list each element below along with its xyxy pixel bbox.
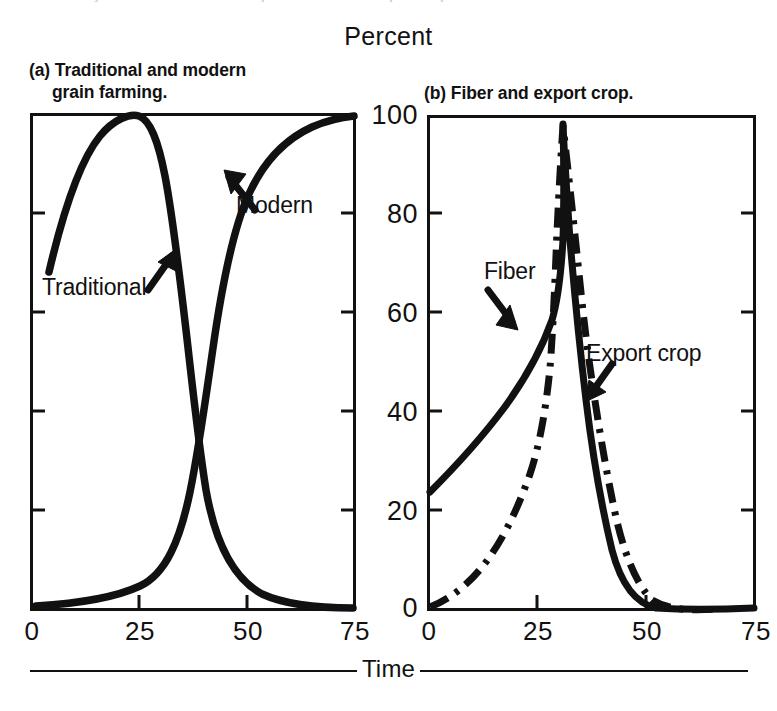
x-axis-label-text: Time xyxy=(357,655,420,682)
panel-a-y-ticks-right xyxy=(341,213,355,510)
fiber-arrow-icon xyxy=(488,290,518,330)
curve-modern xyxy=(36,116,354,606)
panel-b-x-ticks xyxy=(537,595,646,609)
panel-b-x-tick-0: 0 xyxy=(399,616,459,647)
x-axis-label: Time xyxy=(0,655,777,683)
label-modern: Modern xyxy=(236,192,313,219)
panel-a-x-tick-75: 75 xyxy=(325,616,385,647)
panel-a-x-tick-0: 0 xyxy=(2,616,62,647)
panel-a-x-ticks xyxy=(139,595,247,609)
panel-b-plot xyxy=(400,0,777,640)
curve-export-crop xyxy=(430,126,720,610)
curve-traditional xyxy=(49,115,353,608)
label-traditional: Traditional xyxy=(42,274,146,301)
panel-b-y-ticks-right xyxy=(741,213,755,510)
panel-b-x-tick-75: 75 xyxy=(726,616,777,647)
panel-a-plot xyxy=(0,0,400,640)
panel-a-x-tick-25: 25 xyxy=(110,616,170,647)
label-fiber: Fiber xyxy=(484,258,535,285)
panel-b-x-tick-50: 50 xyxy=(617,616,677,647)
panel-a-y-ticks xyxy=(31,213,45,510)
figure-root: tendency toward concentration of product… xyxy=(0,0,777,711)
panel-a-x-tick-50: 50 xyxy=(218,616,278,647)
panel-b-x-tick-25: 25 xyxy=(508,616,568,647)
label-export-crop: Export crop xyxy=(586,340,701,367)
traditional-arrow-icon xyxy=(148,249,178,290)
panel-b-y-ticks xyxy=(428,213,442,510)
